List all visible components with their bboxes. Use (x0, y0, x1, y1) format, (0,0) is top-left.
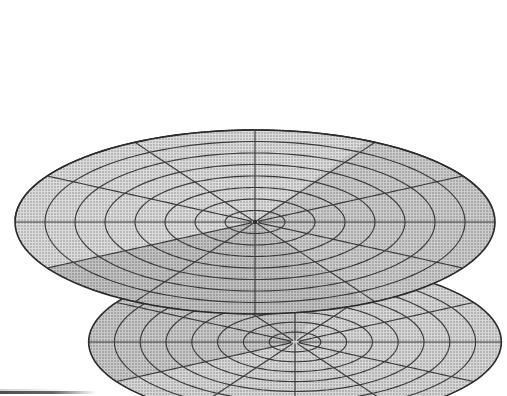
branch-point (253, 220, 257, 224)
figure-root (0, 0, 507, 396)
scan-edge-artifact-secondary (0, 389, 70, 391)
riemann-surface-plot (0, 0, 507, 396)
scan-edge-artifact (0, 391, 96, 394)
